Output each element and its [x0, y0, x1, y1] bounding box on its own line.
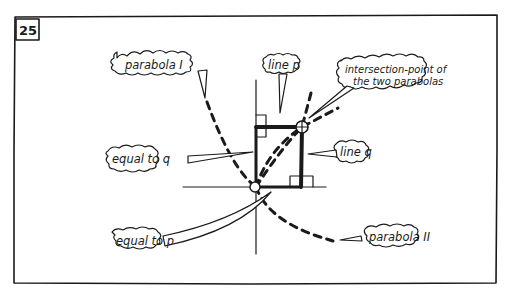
svg-text:parabola II: parabola II [368, 230, 431, 244]
parabola-1-curve [207, 102, 256, 187]
svg-text:line q: line q [340, 145, 372, 159]
label-line-p: line p [263, 54, 300, 114]
svg-text:parabola I: parabola I [124, 58, 183, 72]
label-line-q: line q [308, 140, 372, 163]
svg-text:equal to q: equal to q [112, 152, 170, 166]
label-parabola-2: parabola II [340, 224, 431, 247]
label-intersection-point: intersection-point of the two parabolas [309, 54, 448, 118]
svg-text:the two parabolas: the two parabolas [353, 76, 443, 87]
label-equal-to-p: equal to p [112, 192, 271, 249]
origin-point [250, 182, 260, 192]
parabola-1-upper-branch [256, 108, 338, 187]
panel-number: 25 [19, 23, 37, 38]
svg-text:line p: line p [268, 58, 300, 72]
label-equal-to-q: equal to q [106, 145, 253, 172]
svg-text:intersection-point of: intersection-point of [345, 64, 448, 75]
diagram-canvas: 25 parabola I line p intersection-po [0, 0, 511, 300]
svg-text:equal to p: equal to p [116, 234, 174, 248]
intersection-point [296, 121, 308, 133]
label-parabola-1: parabola I [111, 51, 207, 99]
line-q [301, 127, 302, 187]
panel-number-badge: 25 [16, 19, 39, 40]
